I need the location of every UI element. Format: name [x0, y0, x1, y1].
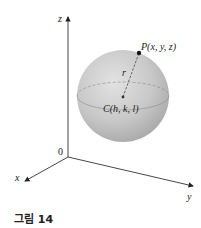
figure-caption: 그림 14	[14, 210, 53, 226]
origin-label: 0	[58, 146, 63, 157]
x-axis	[25, 157, 68, 181]
x-axis-label: x	[14, 172, 20, 183]
center-point	[122, 96, 125, 99]
radius-label: r	[122, 67, 126, 78]
point-p-label: P(x, y, z)	[140, 41, 177, 53]
z-axis-label: z	[57, 13, 62, 24]
y-axis-label: y	[186, 191, 192, 202]
center-c-label: C(h, k, l)	[103, 103, 139, 115]
sphere-diagram: z x y 0 P(x, y, z) r C(h, k, l)	[0, 0, 201, 228]
y-axis	[68, 157, 193, 186]
